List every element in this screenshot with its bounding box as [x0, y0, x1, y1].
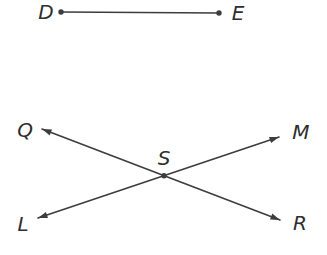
- line-QR: [42, 129, 280, 220]
- label-Q: Q: [17, 118, 33, 142]
- point-S-dot: [161, 173, 166, 178]
- label-M: M: [292, 120, 309, 144]
- line-LM-start-arrowhead-icon: [38, 212, 48, 218]
- label-D: D: [38, 0, 53, 24]
- segment-DE-end-endpoint-dot: [216, 10, 221, 15]
- line-QR-start-arrowhead-icon: [42, 129, 52, 135]
- segment-DE: [61, 12, 219, 13]
- line-QR-end-arrowhead-icon: [270, 214, 280, 220]
- label-S: S: [158, 146, 171, 170]
- segment-DE-start-endpoint-dot: [58, 9, 63, 14]
- label-E: E: [232, 1, 245, 25]
- label-L: L: [17, 212, 28, 236]
- geometry-figure: DEQMSLR: [0, 0, 327, 255]
- label-R: R: [293, 211, 307, 235]
- geometry-diagram-svg: DEQMSLR: [0, 0, 327, 255]
- line-LM-end-arrowhead-icon: [269, 137, 279, 143]
